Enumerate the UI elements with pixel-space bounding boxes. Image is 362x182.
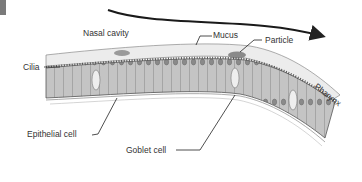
label-nasal-cavity: Nasal cavity <box>83 29 129 38</box>
epithelial-cell-leader <box>92 98 117 135</box>
epithelium-illustration <box>0 0 362 182</box>
goblet-cell <box>289 90 297 110</box>
label-particle: Particle <box>265 36 293 45</box>
label-mucus: Mucus <box>213 31 238 40</box>
label-goblet-cell: Goblet cell <box>126 146 166 155</box>
label-epithelial-cell: Epithelial cell <box>27 130 77 139</box>
goblet-cell <box>231 68 239 88</box>
epithelium-diagram: Nasal cavity Mucus Particle Cilia Pharyn… <box>0 0 362 182</box>
goblet-cell <box>92 70 100 90</box>
goblet-cell-leader <box>176 95 235 150</box>
label-cilia: Cilia <box>23 63 40 72</box>
particle-1 <box>114 50 130 56</box>
